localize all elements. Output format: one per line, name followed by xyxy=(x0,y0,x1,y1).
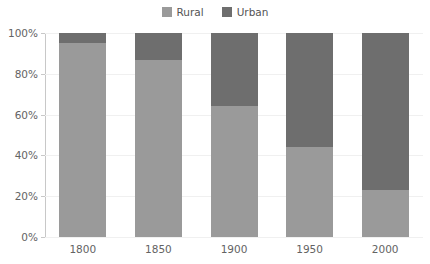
stacked-bar-chart: Rural Urban 0%20%40%60%80%100% 180018501… xyxy=(0,0,430,264)
bar-segment-urban[interactable] xyxy=(59,33,106,43)
y-axis-tick-label: 80% xyxy=(15,68,38,79)
gridline xyxy=(45,237,423,238)
bar-group[interactable] xyxy=(211,33,258,237)
y-axis-tickmark xyxy=(41,155,45,156)
x-axis-tick-label: 1950 xyxy=(296,243,323,255)
y-axis-tick-labels: 0%20%40%60%80%100% xyxy=(0,0,38,264)
bar-group[interactable] xyxy=(362,33,409,237)
legend-label-urban: Urban xyxy=(237,7,269,18)
y-axis-tickmark xyxy=(41,237,45,238)
legend-swatch-rural xyxy=(162,7,172,17)
y-axis-tick-label: 100% xyxy=(8,28,38,39)
y-axis-tick-label: 20% xyxy=(15,191,38,202)
x-axis-tick-label: 1800 xyxy=(69,243,96,255)
y-axis-tickmark xyxy=(41,115,45,116)
bar-group[interactable] xyxy=(135,33,182,237)
legend-swatch-urban xyxy=(222,7,232,17)
bar-segment-rural[interactable] xyxy=(135,60,182,237)
bar-group[interactable] xyxy=(59,33,106,237)
chart-legend: Rural Urban xyxy=(0,4,430,20)
bar-segment-urban[interactable] xyxy=(286,33,333,147)
y-axis-tickmark xyxy=(41,33,45,34)
y-axis-tick-label: 40% xyxy=(15,150,38,161)
y-axis-tick-label: 60% xyxy=(15,109,38,120)
x-axis-tick-label: 1900 xyxy=(221,243,248,255)
y-axis-tickmark xyxy=(41,196,45,197)
x-axis-tick-label: 1850 xyxy=(145,243,172,255)
y-axis-tickmark xyxy=(41,74,45,75)
plot-area xyxy=(45,33,423,237)
x-axis-tick-label: 2000 xyxy=(372,243,399,255)
bar-segment-rural[interactable] xyxy=(59,43,106,237)
legend-label-rural: Rural xyxy=(177,7,204,18)
bar-segment-rural[interactable] xyxy=(286,147,333,237)
bar-group[interactable] xyxy=(286,33,333,237)
y-axis-tick-label: 0% xyxy=(21,232,38,243)
bar-segment-urban[interactable] xyxy=(362,33,409,190)
bar-segment-urban[interactable] xyxy=(211,33,258,106)
legend-item-urban[interactable]: Urban xyxy=(222,7,269,18)
bar-segment-rural[interactable] xyxy=(211,106,258,237)
bar-segment-urban[interactable] xyxy=(135,33,182,60)
bar-segment-rural[interactable] xyxy=(362,190,409,237)
legend-item-rural[interactable]: Rural xyxy=(162,7,204,18)
